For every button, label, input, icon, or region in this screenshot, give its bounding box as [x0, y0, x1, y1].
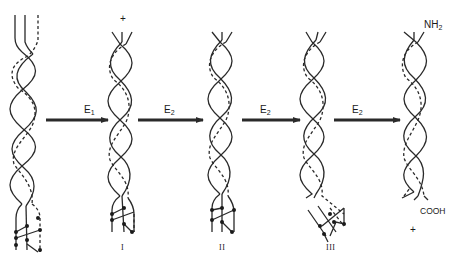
enzyme-subscript: 2 — [267, 109, 271, 116]
nh-text: NH — [424, 19, 438, 30]
terminal-dots-II — [210, 206, 236, 234]
released-propeptide-III — [308, 206, 344, 242]
arrow-label-E2-third: E2 — [352, 105, 363, 116]
helix-start — [10, 15, 40, 252]
arrow-label-E2-second: E2 — [260, 105, 271, 116]
helix-I — [108, 32, 134, 232]
helix-III — [300, 32, 344, 214]
arrow-label-E2-first: E2 — [164, 105, 175, 116]
released-plus-mark: + — [410, 225, 416, 235]
enzyme-subscript: 1 — [91, 109, 95, 116]
structure-label-I: I — [121, 244, 124, 252]
nh-subscript: 2 — [438, 24, 442, 31]
enzyme-subscript: 2 — [359, 109, 363, 116]
helix-final — [402, 32, 428, 200]
enzyme-letter: E — [352, 104, 359, 115]
enzyme-letter: E — [164, 104, 171, 115]
enzyme-letter: E — [84, 104, 91, 115]
structure-label-II: II — [219, 244, 225, 252]
enzyme-letter: E — [260, 104, 267, 115]
amino-terminus-label: NH2 — [424, 20, 442, 31]
arrow-label-E1: E1 — [84, 105, 95, 116]
carboxy-terminus-label: COOH — [420, 207, 446, 216]
plus-mark-top-I: + — [120, 14, 126, 24]
helix-II — [208, 32, 234, 232]
diagram-canvas — [0, 0, 455, 256]
enzyme-subscript: 2 — [171, 109, 175, 116]
structure-label-III: III — [326, 244, 336, 252]
